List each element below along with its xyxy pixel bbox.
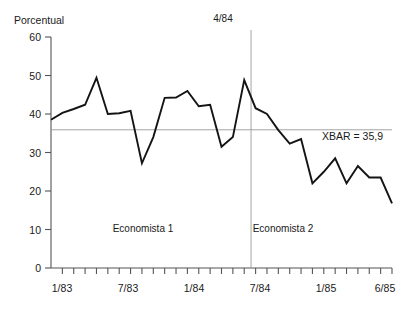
- x-tick-label-7-84: 7/84: [250, 282, 271, 294]
- chart-container: Porcentual 60 50 40 30 20 10 0 1/83: [0, 0, 408, 315]
- x-axis-tick-labels: 1/83 7/83 1/84 7/84 1/85 6/85: [52, 282, 396, 294]
- y-axis-ticks: 60 50 40 30 20 10 0: [29, 31, 51, 274]
- x-tick-label-1-83: 1/83: [52, 282, 73, 294]
- y-axis-title: Porcentual: [14, 14, 64, 26]
- x-axis-ticks: [62, 268, 392, 274]
- line-chart: Porcentual 60 50 40 30 20 10 0 1/83: [0, 0, 408, 315]
- y-tick-label-10: 10: [29, 224, 41, 236]
- y-tick-label-20: 20: [29, 185, 41, 197]
- xbar-label: XBAR = 35,9: [322, 130, 383, 142]
- y-tick-label-0: 0: [35, 262, 41, 274]
- y-tick-label-60: 60: [29, 31, 41, 43]
- phase-divider-label: 4/84: [213, 13, 233, 24]
- x-tick-label-1-85: 1/85: [316, 282, 337, 294]
- y-tick-label-50: 50: [29, 70, 41, 82]
- y-tick-label-30: 30: [29, 147, 41, 159]
- phase-label-economista-1: Economista 1: [113, 223, 174, 234]
- x-tick-label-6-85: 6/85: [375, 282, 396, 294]
- phase-label-economista-2: Economista 2: [253, 223, 314, 234]
- x-tick-label-7-83: 7/83: [118, 282, 139, 294]
- x-tick-label-1-84: 1/84: [184, 282, 205, 294]
- y-tick-label-40: 40: [29, 108, 41, 120]
